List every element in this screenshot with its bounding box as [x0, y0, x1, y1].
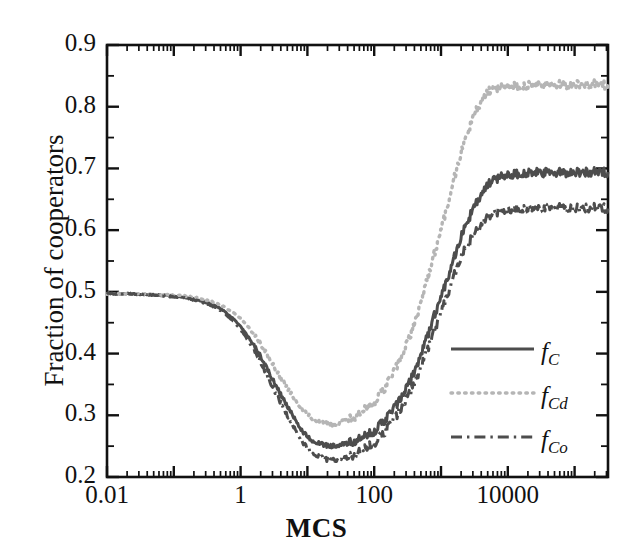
legend-fco-base: f — [541, 426, 548, 453]
x-tick-label: 100 — [299, 481, 449, 509]
series-line-f-cd — [107, 80, 608, 426]
x-tick-label: 10000 — [433, 481, 583, 509]
chart-figure: Fraction of cooperators MCS 0.20.30.40.5… — [0, 0, 633, 560]
legend-label-fcd: fCd — [541, 382, 568, 414]
data-series-layer — [107, 80, 608, 462]
legend-fc-base: f — [541, 338, 548, 365]
y-tick-label: 0.3 — [30, 399, 96, 427]
x-tick-label: 1 — [166, 481, 316, 509]
legend-fcd-base: f — [541, 382, 548, 409]
legend-fcd-sub: Cd — [548, 394, 568, 413]
y-tick-label: 0.8 — [30, 91, 96, 119]
y-tick-label: 0.7 — [30, 152, 96, 180]
legend-label-fc: fC — [541, 338, 559, 370]
legend-sample-lines — [451, 349, 534, 437]
legend-label-fco: fCo — [541, 426, 568, 458]
legend-fc-sub: C — [548, 350, 559, 369]
x-axis-label: MCS — [0, 513, 633, 544]
y-tick-label: 0.5 — [30, 276, 96, 304]
series-line-f-co — [107, 203, 608, 462]
y-tick-label: 0.9 — [30, 29, 96, 57]
y-tick-label: 0.6 — [30, 214, 96, 242]
legend-fco-sub: Co — [548, 438, 568, 457]
x-axis-ticks — [107, 45, 606, 477]
y-tick-label: 0.4 — [30, 338, 96, 366]
x-tick-label: 0.01 — [32, 481, 182, 509]
